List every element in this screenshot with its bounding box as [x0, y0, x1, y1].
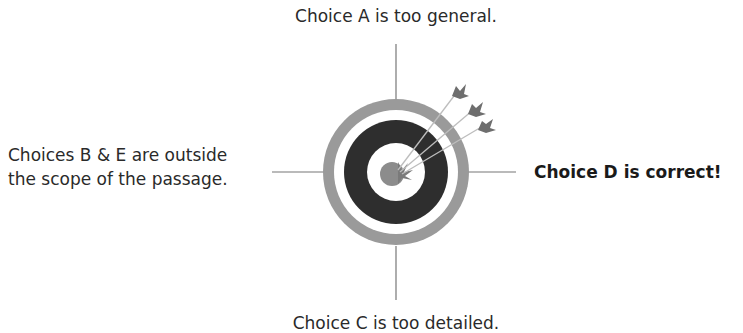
choices-b-e-label-line1: Choices B & E are outside	[8, 143, 228, 167]
arrow-fletching-icons	[452, 84, 496, 133]
choice-c-label: Choice C is too detailed.	[0, 311, 743, 333]
bullseye-target-icon	[323, 99, 469, 245]
choice-d-correct-label: Choice D is correct!	[534, 160, 722, 184]
choice-a-label: Choice A is too general.	[0, 4, 743, 28]
choices-b-e-label-line2: the scope of the passage.	[8, 167, 228, 191]
choices-b-e-label: Choices B & E are outside the scope of t…	[8, 143, 228, 191]
